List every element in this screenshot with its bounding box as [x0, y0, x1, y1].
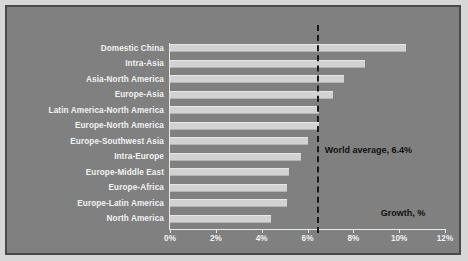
x-axis-tick-label: 2% [196, 234, 236, 243]
bar [170, 215, 271, 223]
bar [170, 153, 301, 161]
x-axis-tick [445, 229, 446, 233]
category-label: Europe-Africa [14, 183, 164, 193]
category-label: Intra-Europe [14, 152, 164, 162]
bar [170, 106, 319, 114]
category-label: Latin America-North America [14, 106, 164, 116]
bar [170, 122, 319, 130]
category-label: Domestic China [14, 44, 164, 54]
bar [170, 44, 406, 52]
x-axis-tick-label: 4% [242, 234, 282, 243]
x-axis-tick [216, 229, 217, 233]
x-axis-tick [262, 229, 263, 233]
chart-panel: Domestic ChinaIntra-AsiaAsia-North Ameri… [5, 5, 461, 255]
world-average-line [317, 25, 319, 233]
category-label: Europe-Asia [14, 90, 164, 100]
world-average-annotation: World average, 6.4% [325, 145, 412, 155]
category-axis-labels: Domestic ChinaIntra-AsiaAsia-North Ameri… [12, 43, 164, 233]
category-label: Europe-North America [14, 121, 164, 131]
bar [170, 199, 287, 207]
x-axis-tick-label: 6% [288, 234, 328, 243]
x-axis-tick-label: 12% [425, 234, 465, 243]
bar-series [170, 43, 460, 233]
x-axis-tick-label: 0% [150, 234, 190, 243]
category-label: Europe-Southwest Asia [14, 137, 164, 147]
category-label: Europe-Latin America [14, 199, 164, 209]
plot-area: Domestic ChinaIntra-AsiaAsia-North Ameri… [7, 7, 459, 253]
bar [170, 91, 333, 99]
bar [170, 60, 365, 68]
y-axis-line [169, 43, 170, 230]
bar [170, 184, 287, 192]
x-axis-tick [308, 229, 309, 233]
x-axis-tick [399, 229, 400, 233]
bar [170, 168, 289, 176]
bar [170, 137, 308, 145]
category-label: Europe-Middle East [14, 168, 164, 178]
chart-frame: Domestic ChinaIntra-AsiaAsia-North Ameri… [0, 0, 468, 261]
category-label: Intra-Asia [14, 59, 164, 69]
x-axis-tick [170, 229, 171, 233]
x-axis-title: Growth, % [381, 208, 426, 218]
x-axis-tick-label: 8% [333, 234, 373, 243]
x-axis-tick [353, 229, 354, 233]
x-axis-tick-label: 10% [379, 234, 419, 243]
category-label: Asia-North America [14, 75, 164, 85]
category-label: North America [14, 214, 164, 224]
